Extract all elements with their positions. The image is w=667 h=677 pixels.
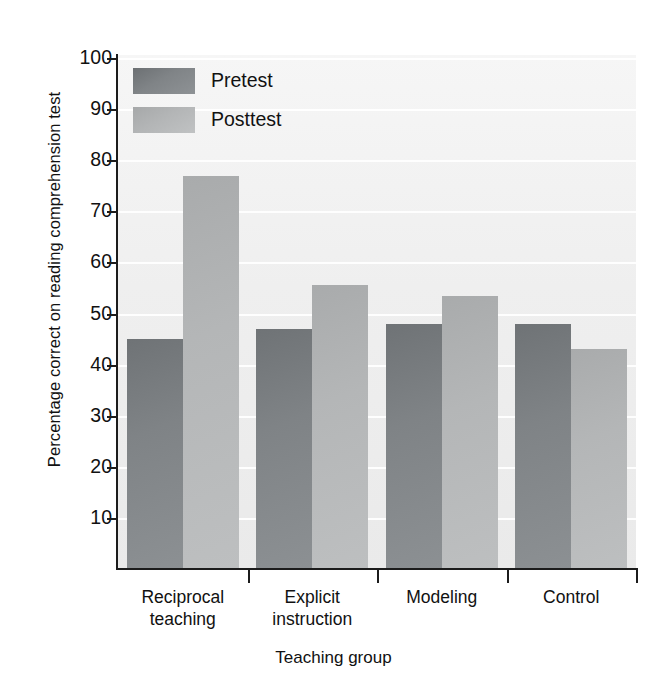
y-axis-tick-label: 100 [4, 48, 112, 68]
x-axis-category-label: Reciprocalteaching [108, 586, 258, 631]
y-axis-tick-label: 40 [4, 355, 112, 375]
y-axis-tick [107, 467, 116, 469]
y-axis-tick [107, 416, 116, 418]
x-axis-category-label: Explicitinstruction [238, 586, 388, 631]
y-axis-tick-labels: 102030405060708090100 [0, 0, 112, 677]
y-axis-tick-label: 50 [4, 304, 112, 324]
y-axis-tick [107, 109, 116, 111]
x-axis-tick [377, 570, 379, 583]
y-axis-tick-label: 90 [4, 99, 112, 119]
y-axis-tick-label: 70 [4, 201, 112, 221]
x-axis-tick [507, 570, 509, 583]
y-axis-tick [107, 58, 116, 60]
x-axis-category-label-line: teaching [108, 608, 258, 630]
x-axis-tick [636, 570, 638, 583]
x-axis-category-label-line: Explicit [238, 586, 388, 608]
x-axis-category-label-line: Modeling [367, 586, 517, 608]
bar-pretest [386, 324, 442, 569]
legend-label-posttest: Posttest [211, 110, 281, 130]
y-axis-tick [107, 160, 116, 162]
bar-posttest [442, 296, 498, 569]
y-axis-tick [107, 365, 116, 367]
bar-chart-figure: Percentage correct on reading comprehens… [0, 0, 667, 677]
bar-posttest [571, 349, 627, 569]
bar-pretest [515, 324, 571, 569]
legend-item-pretest: Pretest [133, 68, 281, 94]
x-axis-category-label-line: Reciprocal [108, 586, 258, 608]
legend-label-pretest: Pretest [211, 71, 273, 91]
legend-swatch-pretest [133, 68, 195, 94]
y-axis-tick [107, 211, 116, 213]
x-axis-category-label: Control [497, 586, 647, 608]
x-axis-title: Teaching group [0, 648, 667, 668]
x-axis-category-label-line: instruction [238, 608, 388, 630]
x-axis-category-label-line: Control [497, 586, 647, 608]
gridline [118, 58, 636, 60]
y-axis-line [116, 54, 118, 570]
y-axis-tick-label: 80 [4, 150, 112, 170]
y-axis-tick-label: 60 [4, 252, 112, 272]
bar-pretest [256, 329, 312, 569]
gridline [118, 160, 636, 162]
y-axis-tick-label: 20 [4, 457, 112, 477]
y-axis-tick-label: 10 [4, 508, 112, 528]
legend-swatch-posttest [133, 107, 195, 133]
y-axis-tick [107, 262, 116, 264]
x-axis-tick [248, 570, 250, 583]
bar-posttest [183, 176, 239, 569]
x-axis-category-label: Modeling [367, 586, 517, 608]
legend-item-posttest: Posttest [133, 107, 281, 133]
y-axis-tick-label: 30 [4, 406, 112, 426]
y-axis-tick [107, 518, 116, 520]
y-axis-tick [107, 314, 116, 316]
bar-posttest [312, 285, 368, 569]
legend: Pretest Posttest [133, 68, 281, 146]
bar-pretest [127, 339, 183, 569]
